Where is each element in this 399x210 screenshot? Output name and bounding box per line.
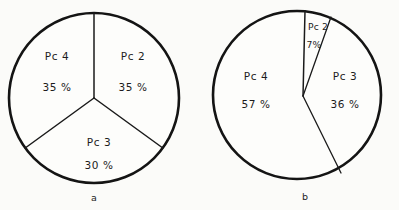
pie-a-slice-value-pc4: 35 %	[42, 81, 71, 93]
pie-a-slice-label-pc4: Pc 4	[45, 50, 70, 62]
pie-b-slice-label-pc3: Pc 3	[333, 70, 358, 82]
pie-b-outline	[213, 11, 381, 179]
pie-chart-b: Pc 2 7% Pc 3 36 % Pc 4 57 % b	[213, 11, 381, 202]
pie-chart-a: Pc 2 35 % Pc 3 30 % Pc 4 35 % a	[9, 13, 179, 203]
pie-b-slice-label-pc4: Pc 4	[244, 70, 269, 82]
pie-a-slice-value-pc3: 30 %	[84, 159, 113, 171]
pie-a-slice-label-pc2: Pc 2	[121, 50, 146, 62]
pie-b-slice-label-pc2: Pc 2	[308, 21, 328, 32]
figure-canvas: Pc 2 35 % Pc 3 30 % Pc 4 35 % a Pc 2 7% …	[0, 0, 399, 210]
pie-b-caption: b	[302, 191, 308, 202]
pie-figure: Pc 2 35 % Pc 3 30 % Pc 4 35 % a Pc 2 7% …	[0, 0, 399, 210]
pie-a-slice-label-pc3: Pc 3	[87, 136, 112, 148]
pie-a-slice-value-pc2: 35 %	[118, 81, 147, 93]
pie-a-caption: a	[91, 192, 97, 203]
pie-b-slice-value-pc4: 57 %	[241, 98, 270, 110]
pie-b-slice-value-pc3: 36 %	[330, 98, 359, 110]
pie-b-slice-value-pc2: 7%	[307, 39, 322, 50]
